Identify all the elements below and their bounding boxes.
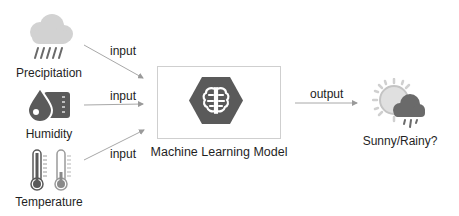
- sun-rain-cloud-icon: [372, 78, 428, 130]
- ml-model-label: Machine Learning Model: [140, 145, 298, 159]
- input-label-humidity: Humidity: [2, 127, 96, 141]
- output-label: Sunny/Rainy?: [360, 134, 440, 148]
- arrow-label-output: output: [310, 87, 343, 101]
- humidity-drop-icon: [26, 88, 76, 122]
- arrow-label-input-1: input: [110, 44, 136, 58]
- arrow-label-input-3: input: [110, 147, 136, 161]
- thermometer-icon: [28, 148, 76, 192]
- rain-cloud-icon: [24, 12, 76, 62]
- arrow-humidity-to-model: [84, 104, 143, 105]
- brain-hexagon-icon: [188, 76, 244, 125]
- input-label-precipitation: Precipitation: [2, 66, 96, 80]
- arrow-label-input-2: input: [110, 89, 136, 103]
- input-label-temperature: Temperature: [2, 195, 96, 209]
